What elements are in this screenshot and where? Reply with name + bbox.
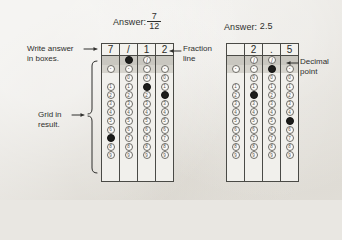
- digit-bubble-3-2[interactable]: 2: [143, 91, 151, 99]
- digit-bubble-4-2[interactable]: 2: [286, 91, 294, 99]
- written-answer-box-1[interactable]: 7: [102, 44, 119, 56]
- digit-bubble-2-5[interactable]: 5: [250, 117, 258, 125]
- digit-bubble-3-1[interactable]: 1: [268, 83, 276, 91]
- digit-bubble-1-5[interactable]: 5: [232, 117, 240, 125]
- digit-bubble-3-2[interactable]: 2: [268, 91, 276, 99]
- digit-bubble-3-4[interactable]: 4: [143, 108, 151, 116]
- written-answer-box-3[interactable]: 1: [138, 44, 155, 56]
- digit-bubble-2-0[interactable]: 0: [250, 74, 258, 82]
- digit-bubble-4-7[interactable]: 7: [286, 134, 294, 142]
- decimal-point-bubble-2[interactable]: ·: [250, 65, 258, 73]
- digit-bubble-2-1[interactable]: 1: [125, 83, 133, 91]
- digit-bubble-1-9[interactable]: 9: [107, 151, 115, 159]
- decimal-point-bubble-4[interactable]: ·: [161, 65, 169, 73]
- digit-bubble-3-5[interactable]: 5: [268, 117, 276, 125]
- digit-bubble-2-0[interactable]: 0: [125, 74, 133, 82]
- grid-column-2[interactable]: 2/·0123456789: [245, 44, 263, 181]
- digit-bubble-4-9[interactable]: 9: [161, 151, 169, 159]
- digit-bubble-2-9[interactable]: 9: [250, 151, 258, 159]
- written-answer-box-4[interactable]: 5: [281, 44, 298, 56]
- digit-bubble-4-6[interactable]: 6: [161, 126, 169, 134]
- decimal-point-bubble-1[interactable]: ·: [107, 65, 115, 73]
- digit-bubble-2-3[interactable]: 3: [250, 100, 258, 108]
- digit-bubble-4-6[interactable]: 6: [286, 126, 294, 134]
- digit-bubble-2-6[interactable]: 6: [250, 126, 258, 134]
- digit-bubble-4-0[interactable]: 0: [286, 74, 294, 82]
- written-answer-box-3[interactable]: .: [263, 44, 280, 56]
- grid-column-1[interactable]: 7/·0123456789: [102, 44, 120, 181]
- digit-bubble-1-2[interactable]: 2: [107, 91, 115, 99]
- digit-bubble-2-1[interactable]: 1: [250, 83, 258, 91]
- digit-bubble-4-1[interactable]: 1: [161, 83, 169, 91]
- written-answer-box-4[interactable]: 2: [156, 44, 173, 56]
- digit-bubble-1-1[interactable]: 1: [232, 83, 240, 91]
- digit-bubble-3-9[interactable]: 9: [143, 151, 151, 159]
- digit-bubble-3-7[interactable]: 7: [143, 134, 151, 142]
- written-answer-box-2[interactable]: 2: [245, 44, 262, 56]
- digit-bubble-3-8[interactable]: 8: [268, 143, 276, 151]
- digit-bubble-2-7[interactable]: 7: [125, 134, 133, 142]
- digit-bubble-1-7[interactable]: 7: [232, 134, 240, 142]
- digit-bubble-4-1[interactable]: 1: [286, 83, 294, 91]
- digit-bubble-3-3[interactable]: 3: [268, 100, 276, 108]
- digit-bubble-2-8[interactable]: 8: [250, 143, 258, 151]
- grid-column-3[interactable]: 1/·0123456789: [138, 44, 156, 181]
- digit-bubble-4-3[interactable]: 3: [161, 100, 169, 108]
- grid-column-4[interactable]: 5/·0123456789: [281, 44, 298, 181]
- written-answer-box-2[interactable]: /: [120, 44, 137, 56]
- answer-grid-fraction[interactable]: 7/·0123456789//·01234567891/·01234567892…: [101, 43, 174, 182]
- digit-bubble-1-6[interactable]: 6: [232, 126, 240, 134]
- digit-bubble-3-1[interactable]: 1: [143, 83, 151, 91]
- digit-bubble-2-2[interactable]: 2: [125, 91, 133, 99]
- digit-bubble-1-4[interactable]: 4: [107, 108, 115, 116]
- digit-bubble-4-4[interactable]: 4: [161, 108, 169, 116]
- grid-column-4[interactable]: 2/·0123456789: [156, 44, 173, 181]
- digit-bubble-1-3[interactable]: 3: [107, 100, 115, 108]
- digit-bubble-3-0[interactable]: 0: [143, 74, 151, 82]
- digit-bubble-4-9[interactable]: 9: [286, 151, 294, 159]
- grid-column-3[interactable]: ./·0123456789: [263, 44, 281, 181]
- digit-bubble-3-3[interactable]: 3: [143, 100, 151, 108]
- digit-bubble-1-8[interactable]: 8: [107, 143, 115, 151]
- digit-bubble-1-9[interactable]: 9: [232, 151, 240, 159]
- digit-bubble-1-2[interactable]: 2: [232, 91, 240, 99]
- decimal-point-bubble-2[interactable]: ·: [125, 65, 133, 73]
- digit-bubble-2-5[interactable]: 5: [125, 117, 133, 125]
- digit-bubble-1-1[interactable]: 1: [107, 83, 115, 91]
- decimal-point-bubble-3[interactable]: ·: [143, 65, 151, 73]
- digit-bubble-1-4[interactable]: 4: [232, 108, 240, 116]
- digit-bubble-4-5[interactable]: 5: [286, 117, 294, 125]
- digit-bubble-1-7[interactable]: 7: [107, 134, 115, 142]
- digit-bubble-2-3[interactable]: 3: [125, 100, 133, 108]
- grid-column-2[interactable]: //·0123456789: [120, 44, 138, 181]
- digit-bubble-2-2[interactable]: 2: [250, 91, 258, 99]
- digit-bubble-3-0[interactable]: 0: [268, 74, 276, 82]
- grid-column-1[interactable]: /·0123456789: [227, 44, 245, 181]
- decimal-point-bubble-1[interactable]: ·: [232, 65, 240, 73]
- digit-bubble-3-6[interactable]: 6: [268, 126, 276, 134]
- digit-bubble-3-4[interactable]: 4: [268, 108, 276, 116]
- digit-bubble-4-0[interactable]: 0: [161, 74, 169, 82]
- decimal-point-bubble-3[interactable]: ·: [268, 65, 276, 73]
- digit-bubble-4-4[interactable]: 4: [286, 108, 294, 116]
- digit-bubble-3-9[interactable]: 9: [268, 151, 276, 159]
- digit-bubble-4-8[interactable]: 8: [161, 143, 169, 151]
- digit-bubble-2-7[interactable]: 7: [250, 134, 258, 142]
- digit-bubble-3-5[interactable]: 5: [143, 117, 151, 125]
- digit-bubble-2-4[interactable]: 4: [125, 108, 133, 116]
- digit-bubble-1-8[interactable]: 8: [232, 143, 240, 151]
- answer-grid-decimal[interactable]: /·01234567892/·0123456789./·01234567895/…: [226, 43, 299, 182]
- written-answer-box-1[interactable]: [227, 44, 244, 56]
- digit-bubble-4-8[interactable]: 8: [286, 143, 294, 151]
- digit-bubble-2-8[interactable]: 8: [125, 143, 133, 151]
- digit-bubble-4-3[interactable]: 3: [286, 100, 294, 108]
- digit-bubble-2-6[interactable]: 6: [125, 126, 133, 134]
- digit-bubble-3-7[interactable]: 7: [268, 134, 276, 142]
- digit-bubble-2-4[interactable]: 4: [250, 108, 258, 116]
- digit-bubble-3-6[interactable]: 6: [143, 126, 151, 134]
- digit-bubble-3-8[interactable]: 8: [143, 143, 151, 151]
- digit-bubble-4-2[interactable]: 2: [161, 91, 169, 99]
- digit-bubble-2-9[interactable]: 9: [125, 151, 133, 159]
- digit-bubble-1-3[interactable]: 3: [232, 100, 240, 108]
- digit-bubble-1-5[interactable]: 5: [107, 117, 115, 125]
